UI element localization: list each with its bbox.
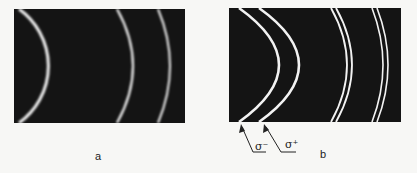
panel-label-a: a (95, 150, 101, 162)
panel-label-b: b (320, 148, 326, 160)
sigma-minus-label: σ⁻ (255, 140, 268, 153)
arrowhead-sigma-plus (263, 124, 269, 133)
sigma-plus-label: σ⁺ (285, 138, 298, 151)
